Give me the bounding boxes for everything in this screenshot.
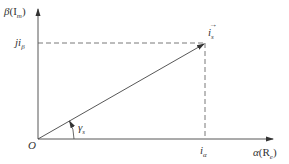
origin-label: O: [28, 140, 36, 151]
gamma-sub: s: [82, 128, 85, 136]
diagram-canvas: [0, 0, 289, 164]
angle-label: γs: [78, 122, 85, 136]
beta-close: ): [22, 5, 26, 17]
current-vector: [38, 44, 204, 139]
alpha-projection-label: iα: [200, 145, 207, 159]
ialpha-sub: α: [203, 151, 207, 159]
beta-paren: (I: [9, 5, 16, 17]
beta-axis-label: β(Im): [4, 6, 26, 20]
ibeta-sub: β: [21, 43, 25, 51]
vector-label: → is: [208, 27, 214, 41]
alpha-axis-label: α(Re): [253, 147, 277, 161]
vector-diagram: β(Im) jiβ → is γs O iα α(Re): [0, 0, 289, 164]
beta-projection-label: jiβ: [15, 37, 25, 51]
vector-arrow-icon: →: [209, 21, 217, 29]
angle-arc: [70, 121, 75, 139]
is-sub: s: [211, 33, 214, 41]
alpha-close: ): [273, 146, 277, 158]
alpha-paren: (R: [259, 146, 270, 158]
